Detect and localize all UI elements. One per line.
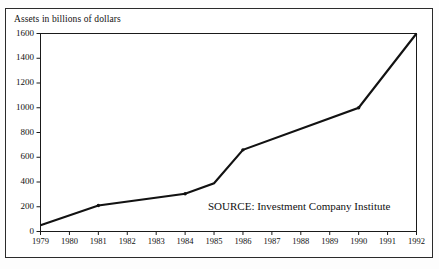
x-tick-label: 1988 — [286, 237, 316, 246]
x-tick-label: 1991 — [373, 237, 403, 246]
x-tick-label: 1990 — [344, 237, 374, 246]
x-tick-label: 1983 — [141, 237, 171, 246]
figure-container: Assets in billions of dollars 0200400600… — [0, 0, 439, 269]
y-tick-label: 1600 — [0, 29, 34, 38]
x-tick-label: 1984 — [170, 237, 200, 246]
x-tick-label: 1982 — [112, 237, 142, 246]
y-axis-tick-marks — [37, 34, 41, 232]
x-tick-label: 1987 — [257, 237, 287, 246]
data-point-marker — [357, 106, 360, 109]
x-tick-label: 1980 — [54, 237, 84, 246]
chart-canvas — [0, 0, 439, 269]
y-tick-label: 1000 — [0, 103, 34, 112]
x-tick-label: 1992 — [402, 237, 432, 246]
x-tick-label: 1985 — [199, 237, 229, 246]
x-tick-label: 1989 — [315, 237, 345, 246]
data-point-marker — [97, 204, 100, 207]
source-note: SOURCE: Investment Company Institute — [208, 200, 390, 213]
x-axis-tick-marks — [41, 232, 417, 236]
y-tick-label: 1400 — [0, 53, 34, 62]
x-tick-label: 1979 — [26, 237, 56, 246]
y-tick-label: 1200 — [0, 78, 34, 87]
y-tick-label: 0 — [0, 227, 34, 236]
y-tick-label: 600 — [0, 152, 34, 161]
y-tick-label: 400 — [0, 177, 34, 186]
data-point-marker — [241, 148, 244, 151]
y-tick-label: 200 — [0, 202, 34, 211]
x-tick-label: 1981 — [83, 237, 113, 246]
x-tick-label: 1986 — [228, 237, 258, 246]
data-point-marker — [183, 192, 186, 195]
data-series-line — [41, 34, 417, 226]
y-tick-label: 800 — [0, 128, 34, 137]
